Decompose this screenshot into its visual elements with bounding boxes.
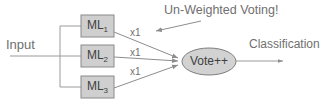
ml-node-3: ML3 (81, 76, 114, 98)
ml-node-1-name: ML (87, 18, 104, 32)
weight-label-ml3: x1 (130, 66, 141, 77)
edge-ml1-to-vote (114, 32, 178, 58)
ml-node-1-label: ML1 (81, 18, 114, 34)
annotation-label: Un-Weighted Voting! (164, 3, 278, 17)
ml-node-1: ML1 (81, 15, 114, 37)
vote-node-label: Vote++ (182, 54, 236, 68)
weight-label-ml1: x1 (130, 27, 141, 38)
weight-label-ml2: x1 (130, 47, 141, 58)
ml-node-2-label: ML2 (81, 48, 114, 64)
ml-node-3-label: ML3 (81, 79, 114, 95)
edge-ml2-to-vote (114, 57, 178, 61)
input-label: Input (6, 37, 35, 52)
ml-node-2-name: ML (87, 48, 104, 62)
ml-node-3-subscript: 3 (104, 86, 108, 95)
annotation-arrow-line (156, 21, 201, 31)
output-label: Classification (249, 37, 320, 51)
ensemble-voting-diagram: Input Classification Un-Weighted Voting!… (0, 0, 326, 108)
ml-node-2: ML2 (81, 45, 114, 67)
ml-node-3-name: ML (87, 79, 104, 93)
ml-node-1-subscript: 1 (104, 25, 108, 34)
edge-ml3-to-vote (114, 65, 178, 88)
ml-node-2-subscript: 2 (104, 55, 108, 64)
